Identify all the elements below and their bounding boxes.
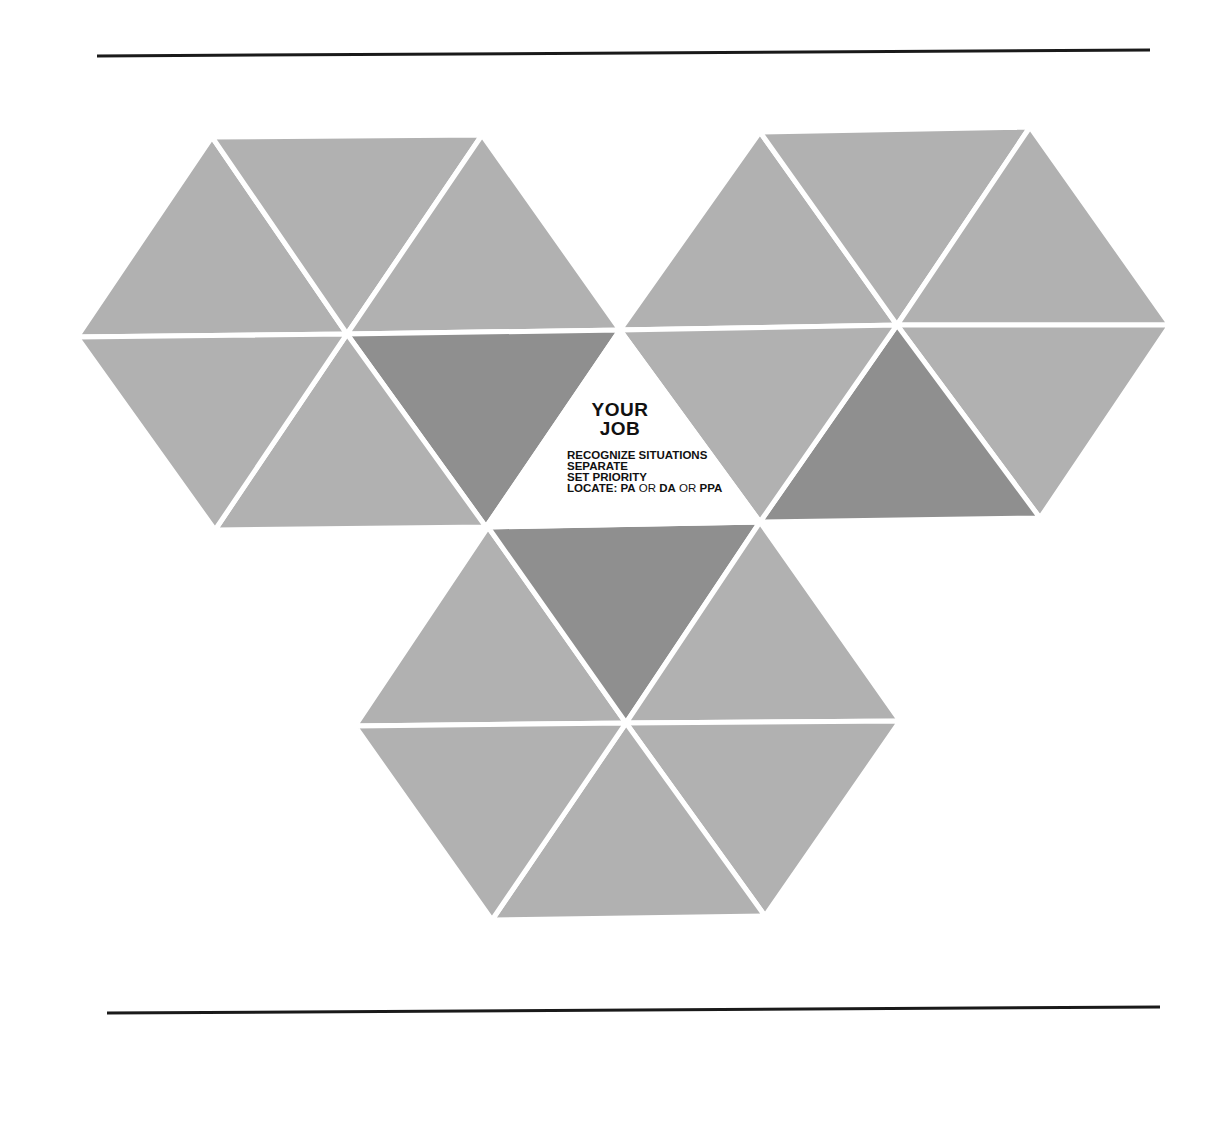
or-text: OR	[676, 482, 700, 494]
bottom-rule	[107, 1007, 1160, 1013]
or-text: OR	[636, 482, 660, 494]
job-steps-list: RECOGNIZE SITUATIONS SEPARATE SET PRIORI…	[567, 450, 750, 494]
title-line-1: YOUR	[540, 400, 700, 419]
title-line-2: JOB	[540, 419, 700, 438]
step-locate: LOCATE: PA OR DA OR PPA	[567, 483, 750, 494]
locate-da: DA	[659, 482, 676, 494]
hexagon-diagram	[0, 0, 1210, 1121]
locate-ppa: PPA	[699, 482, 722, 494]
your-job-title: YOUR JOB	[540, 400, 700, 438]
top-rule	[97, 50, 1150, 56]
hexagon-bottom	[355, 522, 900, 920]
locate-pa: LOCATE: PA	[567, 482, 636, 494]
your-job-panel: YOUR JOB RECOGNIZE SITUATIONS SEPARATE S…	[500, 400, 750, 494]
